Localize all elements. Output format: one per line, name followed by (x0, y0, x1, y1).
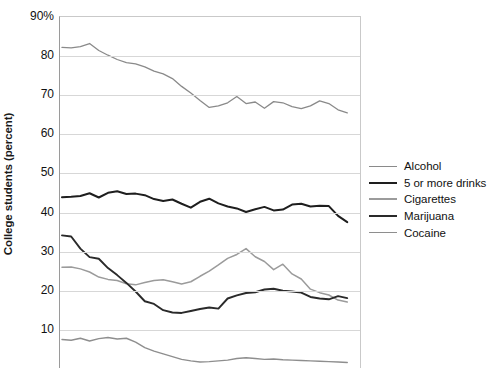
y-axis-tick-10: 10 (10, 323, 54, 335)
gridline-30 (60, 252, 360, 253)
legend-label: 5 or more drinks (404, 177, 486, 189)
legend-swatch-icon (369, 182, 397, 184)
series-line-5-or-more-drinks (62, 191, 347, 222)
y-axis-tick-60: 60 (10, 127, 54, 139)
gridline-50 (60, 173, 360, 174)
y-axis-tick-20: 20 (10, 284, 54, 296)
legend-swatch-icon (369, 166, 397, 167)
legend-swatch-icon (369, 215, 397, 217)
series-lines (60, 17, 360, 368)
y-axis-tick-50: 50 (10, 166, 54, 178)
gridline-10 (60, 330, 360, 331)
gridline-20 (60, 291, 360, 292)
y-axis-tick-80: 80 (10, 49, 54, 61)
legend-label: Alcohol (404, 160, 441, 172)
y-axis-tick-40: 40 (10, 206, 54, 218)
legend-swatch-icon (369, 232, 397, 233)
y-axis-tick-90: 90% (10, 10, 54, 22)
legend-item-cigarettes[interactable]: Cigarettes (369, 191, 497, 208)
y-axis-tick-70: 70 (10, 88, 54, 100)
y-axis-tick-30: 30 (10, 245, 54, 257)
legend-label: Cocaine (404, 227, 446, 239)
legend-swatch-icon (369, 198, 397, 200)
gridline-40 (60, 213, 360, 214)
gridline-60 (60, 134, 360, 135)
legend-item-5-or-more-drinks[interactable]: 5 or more drinks (369, 175, 497, 192)
legend-item-marijuana[interactable]: Marijuana (369, 208, 497, 225)
gridline-70 (60, 95, 360, 96)
chart-legend: Alcohol5 or more drinksCigarettesMarijua… (369, 158, 497, 241)
legend-item-cocaine[interactable]: Cocaine (369, 224, 497, 241)
series-line-cocaine (62, 337, 347, 362)
legend-label: Cigarettes (404, 193, 456, 205)
gridline-80 (60, 56, 360, 57)
chart-figure: College students (percent) 90%8070605040… (0, 0, 497, 368)
plot-area (59, 16, 361, 368)
legend-label: Marijuana (404, 210, 454, 222)
y-axis-tick-labels: 90%8070605040302010 (10, 0, 54, 368)
legend-item-alcohol[interactable]: Alcohol (369, 158, 497, 175)
series-line-alcohol (62, 44, 347, 113)
